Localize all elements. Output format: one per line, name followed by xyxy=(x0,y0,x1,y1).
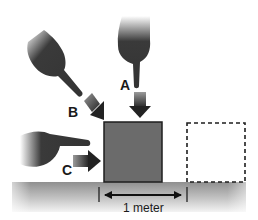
force-label-c: C xyxy=(62,163,72,177)
hand-b-icon xyxy=(27,30,82,97)
force-arrow-c xyxy=(73,150,101,172)
displaced-box-outline xyxy=(187,123,245,182)
diagram-canvas xyxy=(0,0,258,220)
force-arrow-a xyxy=(129,92,151,118)
box xyxy=(104,122,162,182)
work-force-diagram: A B C 1 meter xyxy=(0,0,258,220)
force-label-a: A xyxy=(120,78,130,92)
force-arrow-b xyxy=(84,93,104,120)
distance-label: 1 meter xyxy=(123,202,164,214)
force-label-b: B xyxy=(68,105,78,119)
